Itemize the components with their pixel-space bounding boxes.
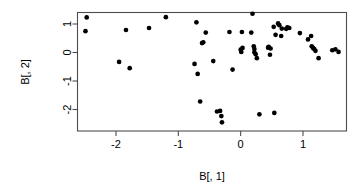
y-tick-label: 1: [61, 21, 73, 27]
x-tick-label: 0: [238, 138, 244, 150]
scatter-point: [200, 41, 205, 46]
y-tick-label: -1: [61, 76, 73, 86]
scatter-point: [313, 48, 318, 53]
scatter-point: [203, 30, 208, 35]
scatter-point: [220, 120, 225, 125]
scatter-point: [127, 66, 132, 71]
x-tick-label: 1: [300, 138, 306, 150]
scatter-point: [195, 72, 200, 77]
scatter-point: [230, 67, 235, 72]
scatter-plot-figure: -2-101 10-1-2 B[, 1] B[, 2]: [0, 0, 363, 194]
scatter-point: [164, 15, 169, 20]
scatter-point: [257, 112, 262, 117]
scatter-point: [250, 11, 255, 16]
scatter-point: [251, 44, 256, 49]
scatter-point: [240, 30, 245, 35]
scatter-point: [273, 32, 278, 37]
scatter-point: [218, 109, 223, 114]
scatter-point: [253, 52, 258, 57]
scatter-point: [239, 50, 244, 55]
scatter-point: [249, 30, 254, 35]
scatter-point: [219, 114, 224, 119]
scatter-point: [192, 62, 197, 67]
scatter-point: [298, 31, 303, 36]
scatter-point: [309, 34, 314, 39]
scatter-point: [272, 111, 277, 116]
scatter-point: [83, 29, 88, 34]
x-axis-title: B[, 1]: [199, 170, 225, 182]
scatter-point: [124, 28, 129, 33]
y-axis-title: B[, 2]: [19, 59, 31, 85]
scatter-point: [117, 60, 122, 65]
scatter-point: [271, 25, 276, 30]
plot-canvas: -2-101 10-1-2 B[, 1] B[, 2]: [0, 0, 363, 194]
scatter-point: [336, 50, 341, 55]
y-tick-label: -2: [61, 105, 73, 115]
scatter-point: [147, 26, 152, 31]
scatter-point: [284, 27, 289, 32]
y-tick-label: 0: [61, 49, 73, 55]
scatter-point: [279, 34, 284, 39]
scatter-point: [279, 26, 284, 31]
scatter-point: [268, 52, 273, 57]
x-tick-label: -2: [111, 138, 121, 150]
scatter-point: [84, 15, 89, 20]
x-tick-label: -1: [173, 138, 183, 150]
scatter-point: [211, 59, 216, 64]
scatter-point: [255, 56, 260, 61]
scatter-point: [194, 20, 199, 25]
figure-background: [0, 0, 363, 194]
scatter-point: [266, 44, 271, 49]
scatter-point: [227, 30, 232, 35]
scatter-point: [309, 44, 314, 49]
scatter-point: [198, 99, 203, 104]
scatter-point: [240, 46, 245, 51]
scatter-point: [316, 56, 321, 61]
